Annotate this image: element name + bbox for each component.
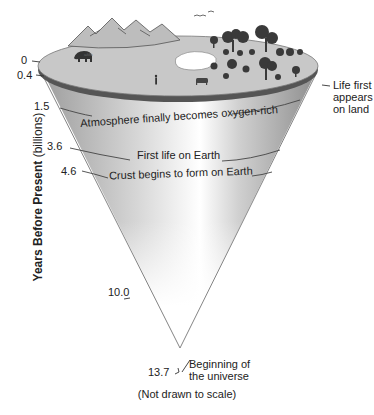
label-line-2: the universe	[189, 370, 250, 382]
tick-4-6: 4.6	[61, 165, 76, 177]
y-axis-label: Years Before Present (billions)	[31, 97, 45, 297]
tick-1-5: 1.5	[34, 100, 49, 112]
label-line-1: Beginning of	[189, 358, 250, 370]
footnote-not-to-scale: (Not drawn to scale)	[0, 388, 374, 400]
tick-0: 0	[21, 54, 27, 66]
mountains-icon	[68, 18, 180, 48]
tick-3-6: 3.6	[47, 140, 62, 152]
y-axis-label-main: Years Before Present	[31, 161, 45, 282]
label-line-1: Life first	[333, 79, 373, 91]
tick-10-0: 10.0	[108, 286, 129, 298]
label-line-2: appears	[333, 91, 373, 103]
tick-13-7: 13.7	[148, 366, 169, 378]
svg-text:a∂∂h: a∂∂h	[84, 52, 92, 57]
label-life-first-on-land: Life first appears on land	[333, 79, 373, 115]
time-cone-diagram: a∂∂h	[0, 0, 374, 415]
label-line-3: on land	[333, 103, 373, 115]
y-axis-label-unit: (billions)	[31, 113, 45, 158]
label-first-life: First life on Earth	[137, 149, 220, 161]
tick-0-4: 0.4	[17, 69, 32, 81]
label-beginning-of-universe: Beginning of the universe	[189, 358, 250, 382]
birds-icon	[194, 11, 214, 16]
